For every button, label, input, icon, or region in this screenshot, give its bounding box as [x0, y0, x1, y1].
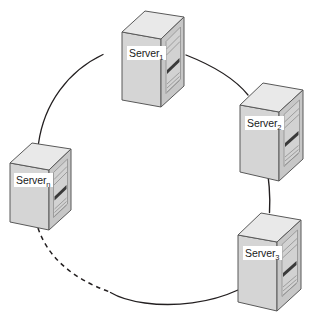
server-1-label-text: Server — [129, 47, 159, 59]
link-server3-to-bottom — [111, 290, 239, 304]
server-3-label: Server3 — [243, 246, 282, 260]
server-n-label: Servern — [14, 173, 53, 187]
server-1-label-subscript: 1 — [159, 53, 163, 62]
node-server-n[interactable]: Servern — [8, 140, 78, 232]
link-servern-to-server1 — [39, 55, 104, 144]
node-server-3[interactable]: Server3 — [236, 209, 308, 314]
server-n-label-text: Server — [16, 174, 46, 186]
server-2-label-subscript: 2 — [277, 123, 281, 132]
server-tower-icon — [238, 80, 309, 182]
server-n-label-subscript: n — [46, 180, 50, 189]
link-ellipsis-dashed — [38, 228, 110, 292]
server-1-label: Server1 — [127, 46, 166, 60]
server-3-label-text: Server — [245, 247, 275, 259]
node-server-1[interactable]: Server1 — [120, 8, 188, 108]
node-server-2[interactable]: Server2 — [238, 80, 309, 182]
server-2-label: Server2 — [245, 116, 284, 130]
server-2-label-text: Server — [247, 117, 277, 129]
server-3-label-subscript: 3 — [275, 253, 279, 262]
server-tower-icon — [236, 209, 308, 314]
ring-topology-diagram: Server1 Server2 — [0, 0, 309, 314]
